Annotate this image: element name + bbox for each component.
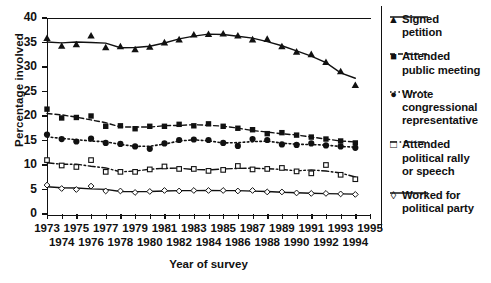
data-point-marker <box>59 136 65 142</box>
data-point-marker <box>59 186 65 192</box>
legend-item[interactable]: □Attendedpolitical rallyor speech <box>388 131 491 178</box>
legend-item[interactable]: ●Wrotecongressionalrepresentative <box>388 81 491 128</box>
series-signed-petition <box>43 30 359 88</box>
data-point-marker <box>219 30 226 37</box>
legend-label-line: political party <box>402 202 474 215</box>
data-point-marker <box>162 124 167 129</box>
data-point-marker <box>220 188 226 194</box>
data-point-marker <box>177 167 182 172</box>
legend-item[interactable]: ■Attendedpublic meeting <box>388 43 491 76</box>
data-point-marker <box>279 189 285 195</box>
data-point-marker <box>234 32 241 39</box>
data-point-marker <box>147 189 153 195</box>
data-point-marker <box>308 191 314 197</box>
x-tick-mark <box>106 214 107 219</box>
legend-item[interactable]: ◊Worked forpolitical party <box>388 182 491 215</box>
x-tick-mark <box>194 214 195 219</box>
data-point-marker <box>88 135 94 141</box>
x-tick-mark <box>311 214 312 219</box>
data-point-marker <box>191 123 196 128</box>
data-point-marker <box>206 121 211 126</box>
series-worked-for-political-party <box>44 182 358 197</box>
data-point-marker <box>44 132 50 138</box>
data-point-marker <box>265 131 270 136</box>
x-tick-mark <box>135 214 136 219</box>
x-tick-mark <box>326 214 327 219</box>
x-tick-mark <box>267 214 268 219</box>
data-point-marker <box>118 123 123 128</box>
data-point-marker <box>190 31 197 38</box>
data-point-marker <box>191 136 197 142</box>
x-tick-mark <box>355 214 356 219</box>
legend-item[interactable]: ▲Signedpetition <box>388 6 491 39</box>
data-point-marker <box>352 192 358 198</box>
x-tick-mark <box>238 214 239 219</box>
x-tick-mark <box>370 214 371 219</box>
data-point-marker <box>264 137 270 143</box>
y-tick-label: 10 <box>7 157 37 172</box>
x-tick-mark <box>282 214 283 219</box>
y-tick-label: 25 <box>7 84 37 99</box>
data-point-marker <box>133 170 138 175</box>
legend-line-sample <box>389 81 429 88</box>
data-point-marker <box>338 138 343 143</box>
data-point-marker <box>88 113 93 118</box>
data-point-marker <box>250 127 255 132</box>
data-point-marker <box>308 140 314 146</box>
data-point-marker <box>250 167 255 172</box>
data-point-marker <box>220 140 226 146</box>
data-point-marker <box>162 164 167 169</box>
data-point-marker <box>352 145 358 151</box>
data-point-marker <box>59 115 64 120</box>
data-point-marker <box>147 124 152 129</box>
x-tick-mark <box>297 214 298 219</box>
data-point-marker <box>294 190 300 196</box>
data-point-marker <box>44 106 49 111</box>
x-tick-mark <box>223 214 224 219</box>
x-tick-mark <box>47 214 48 219</box>
legend-label-line: public meeting <box>402 64 480 77</box>
data-point-marker <box>353 177 358 182</box>
data-point-marker <box>323 136 328 141</box>
y-tick-label: 5 <box>7 182 37 197</box>
legend-label-line: political rally <box>402 152 470 165</box>
x-tick-label-even: 1994 <box>335 235 375 249</box>
data-point-marker <box>117 43 124 50</box>
data-series-layer <box>47 18 370 214</box>
legend-label-line: representative <box>402 114 478 127</box>
chart-legend: ▲Signedpetition■Attendedpublic meeting●W… <box>381 6 491 228</box>
y-tick-label: 40 <box>7 10 37 25</box>
x-axis-title: Year of survey <box>47 258 370 270</box>
data-point-marker <box>176 137 182 143</box>
legend-line-sample <box>389 43 429 50</box>
data-point-marker <box>220 124 225 129</box>
y-tick-label: 0 <box>7 206 37 221</box>
legend-line-sample <box>389 6 429 13</box>
x-tick-mark <box>209 214 210 219</box>
data-point-marker <box>236 164 241 169</box>
data-point-marker <box>309 171 314 176</box>
y-tick-label: 20 <box>7 108 37 123</box>
data-point-marker <box>294 132 299 137</box>
data-point-marker <box>132 126 137 131</box>
x-tick-mark <box>62 214 63 219</box>
x-tick-mark <box>341 214 342 219</box>
data-point-marker <box>43 34 50 41</box>
legend-line-sample <box>389 131 429 138</box>
data-point-marker <box>74 115 79 120</box>
data-point-marker <box>309 134 314 139</box>
data-point-marker <box>206 169 211 174</box>
data-point-marker <box>235 143 241 149</box>
legend-line-sample <box>389 182 429 189</box>
data-point-marker <box>191 188 197 194</box>
data-point-marker <box>162 188 168 194</box>
series-attended-political-rally-or-speech <box>45 158 358 182</box>
data-point-marker <box>147 167 152 172</box>
x-tick-mark <box>91 214 92 219</box>
data-point-marker <box>161 140 167 146</box>
data-point-marker <box>117 141 123 147</box>
data-point-marker <box>118 170 123 175</box>
data-point-marker <box>221 168 226 173</box>
data-point-marker <box>323 191 329 197</box>
data-point-marker <box>352 81 359 88</box>
